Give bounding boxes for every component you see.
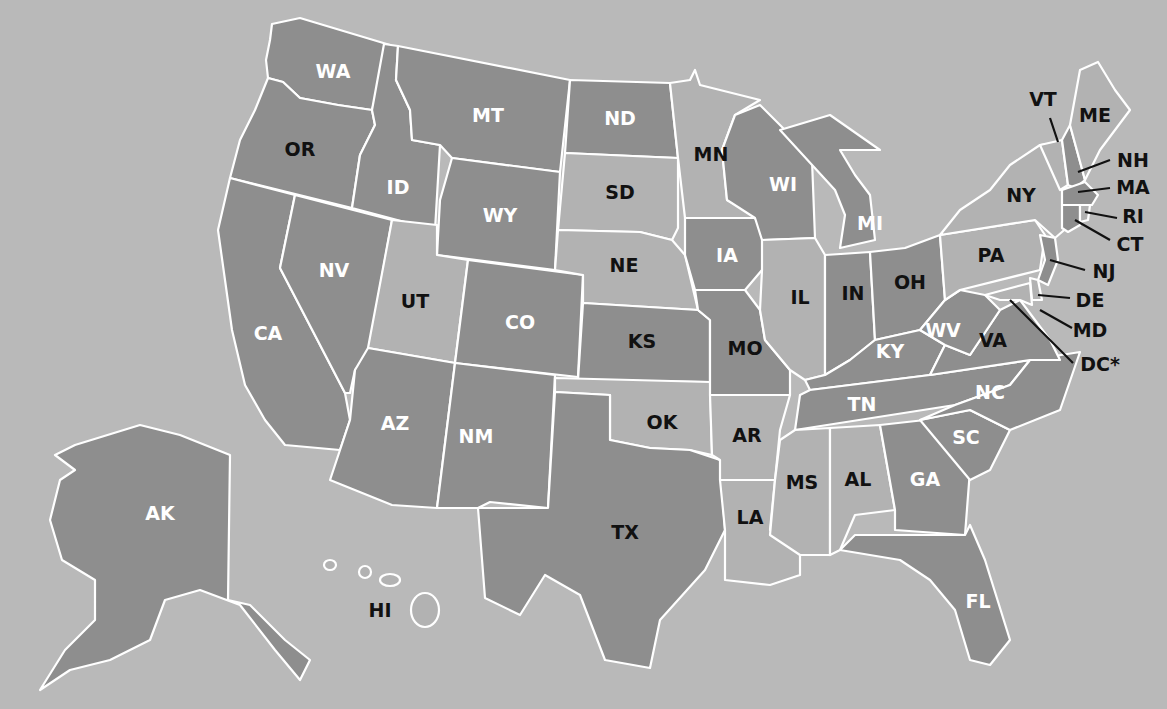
label-ny: NY: [1006, 184, 1036, 206]
label-or: OR: [285, 138, 316, 160]
label-ms: MS: [786, 471, 819, 493]
label-mi: MI: [857, 212, 883, 234]
label-de: DE: [1076, 289, 1105, 311]
label-ks: KS: [628, 330, 656, 352]
label-ri: RI: [1122, 205, 1144, 227]
label-wa: WA: [316, 60, 351, 82]
label-id: ID: [387, 176, 410, 198]
label-ma: MA: [1116, 176, 1150, 198]
label-ky: KY: [876, 340, 905, 362]
label-nh: NH: [1117, 149, 1149, 171]
label-la: LA: [737, 506, 764, 528]
label-tn: TN: [848, 393, 877, 415]
label-ok: OK: [647, 411, 679, 433]
label-ca: CA: [254, 322, 283, 344]
label-nj: NJ: [1093, 260, 1116, 282]
label-ct: CT: [1117, 233, 1144, 255]
label-ia: IA: [716, 244, 738, 266]
label-ar: AR: [732, 424, 762, 446]
label-ak: AK: [145, 502, 176, 524]
label-wi: WI: [769, 173, 797, 195]
label-sc: SC: [952, 426, 980, 448]
label-il: IL: [790, 286, 809, 308]
label-in: IN: [842, 282, 865, 304]
label-sd: SD: [605, 181, 634, 203]
state-nm[interactable]: [437, 363, 555, 508]
label-pa: PA: [978, 244, 1005, 266]
label-ne: NE: [610, 254, 639, 276]
label-mn: MN: [694, 143, 729, 165]
label-nc: NC: [975, 381, 1005, 403]
label-nv: NV: [319, 259, 350, 281]
label-tx: TX: [611, 521, 639, 543]
label-md: MD: [1073, 319, 1108, 341]
us-map: WA OR CA ID NV MT WY UT CO AZ NM ND SD N…: [0, 0, 1167, 709]
label-mt: MT: [472, 104, 504, 126]
label-mo: MO: [727, 337, 762, 359]
us-map-svg: WA OR CA ID NV MT WY UT CO AZ NM ND SD N…: [0, 0, 1167, 709]
label-fl: FL: [965, 590, 990, 612]
label-nm: NM: [459, 425, 494, 447]
label-vt: VT: [1029, 88, 1057, 110]
label-ut: UT: [401, 290, 429, 312]
label-hi: HI: [369, 599, 392, 621]
label-az: AZ: [381, 412, 409, 434]
label-nd: ND: [604, 107, 636, 129]
label-oh: OH: [894, 271, 926, 293]
label-ga: GA: [910, 468, 941, 490]
label-wy: WY: [483, 204, 518, 226]
label-co: CO: [505, 311, 535, 333]
label-me: ME: [1079, 104, 1111, 126]
label-dc: DC*: [1080, 353, 1120, 375]
label-va: VA: [979, 329, 1007, 351]
label-al: AL: [845, 468, 872, 490]
label-wv: WV: [925, 319, 961, 341]
